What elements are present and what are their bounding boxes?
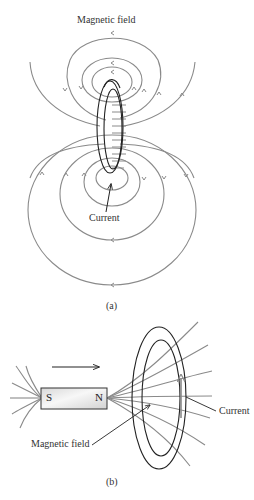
coil-inner xyxy=(104,89,122,169)
field-loop-bottom-2 xyxy=(84,158,140,206)
current-pointer-a xyxy=(106,184,111,212)
current-label-a: Current xyxy=(89,212,120,223)
caption-a: (a) xyxy=(106,300,117,311)
field-label-b: Magnetic field xyxy=(31,438,90,449)
loop-outer xyxy=(132,327,186,469)
current-pointer-b xyxy=(186,397,216,411)
field-label-a: Magnetic field xyxy=(77,14,136,25)
figure-a xyxy=(28,31,196,287)
field-loop-top-3 xyxy=(67,38,160,120)
south-pole-label: S xyxy=(46,391,52,403)
field-loop-bottom-3 xyxy=(60,148,164,240)
diagram-canvas xyxy=(0,0,254,500)
caption-b: (b) xyxy=(106,476,118,487)
field-pointer-b xyxy=(92,405,150,445)
north-pole-label: N xyxy=(95,391,103,403)
current-label-b: Current xyxy=(219,405,250,416)
field-loop-bottom-1 xyxy=(96,166,128,190)
